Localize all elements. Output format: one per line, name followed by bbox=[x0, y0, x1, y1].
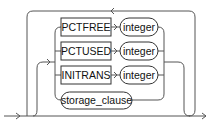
param-integer-3: integer bbox=[120, 66, 158, 84]
branch-entry bbox=[33, 62, 55, 116]
clause-storage: storage_clause bbox=[61, 92, 132, 109]
param-integer-2: integer bbox=[120, 42, 158, 60]
svg-text:integer: integer bbox=[123, 45, 156, 57]
svg-text:PCTUSED: PCTUSED bbox=[61, 45, 112, 57]
branch-left-rail bbox=[55, 27, 61, 100]
branch-exit bbox=[164, 62, 190, 116]
keyword-pctfree: PCTFREE bbox=[61, 18, 111, 36]
branch-right-rail bbox=[132, 27, 164, 100]
param-integer-1: integer bbox=[120, 18, 158, 36]
railroad-diagram: PCTFREE integer PCTUSED integer INITRANS… bbox=[0, 0, 218, 126]
keyword-initrans: INITRANS bbox=[61, 66, 111, 84]
svg-text:integer: integer bbox=[123, 69, 156, 81]
svg-text:PCTFREE: PCTFREE bbox=[61, 21, 110, 33]
keyword-pctused: PCTUSED bbox=[61, 42, 112, 60]
svg-text:integer: integer bbox=[123, 21, 156, 33]
svg-text:storage_clause: storage_clause bbox=[61, 94, 132, 106]
svg-text:INITRANS: INITRANS bbox=[61, 69, 110, 81]
